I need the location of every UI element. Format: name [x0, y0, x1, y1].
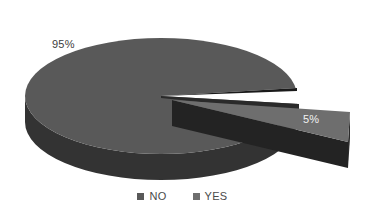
chart-legend: NO YES [0, 190, 365, 202]
legend-swatch-yes-icon [193, 193, 200, 200]
legend-label-no: NO [149, 190, 166, 202]
legend-label-yes: YES [205, 190, 228, 202]
pie-chart-graphic [0, 0, 365, 216]
pie-chart: 95% 5% NO YES [0, 0, 365, 216]
legend-item-yes[interactable]: YES [193, 190, 228, 202]
legend-swatch-no-icon [137, 193, 144, 200]
legend-item-no[interactable]: NO [137, 190, 166, 202]
